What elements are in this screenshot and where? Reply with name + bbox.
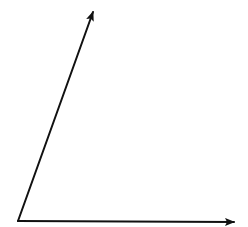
angle-svg xyxy=(0,0,248,227)
horizontal-ray xyxy=(18,221,234,222)
inclined-ray xyxy=(18,12,93,221)
angle-diagram xyxy=(0,0,248,227)
vertex-point xyxy=(17,220,19,222)
